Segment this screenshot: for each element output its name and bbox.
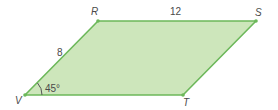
vertex-label-V: V	[15, 95, 23, 106]
side-label-VR: 8	[57, 47, 63, 58]
vertex-dot-S	[254, 19, 258, 23]
side-label-RS: 12	[170, 6, 182, 17]
vertex-label-S: S	[255, 7, 262, 18]
parallelogram-diagram: R S V T 8 12 45°	[0, 0, 278, 110]
angle-label: 45°	[45, 83, 60, 94]
vertex-label-R: R	[91, 6, 98, 17]
vertex-dot-R	[96, 19, 100, 23]
vertex-label-T: T	[183, 97, 190, 108]
vertex-dot-V	[23, 93, 27, 97]
